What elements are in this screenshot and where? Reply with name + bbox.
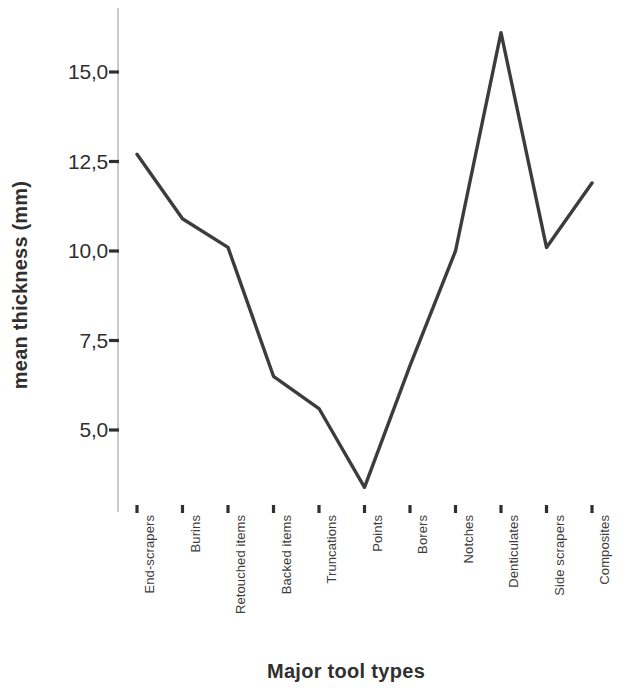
x-tick-label: Burins (188, 515, 203, 655)
x-tick-label: Points (370, 515, 385, 655)
line-chart-figure: mean thickness (mm) 15,012,510,07,55,0 E… (0, 0, 632, 692)
x-axis-title: Major tool types (0, 660, 632, 683)
x-tick-label: Backed items (279, 515, 294, 655)
x-tick-label: Retouched items (233, 515, 248, 655)
x-tick-label: Notches (461, 515, 476, 655)
x-tick-label: Truncations (324, 515, 339, 655)
x-tick-label: Borers (415, 515, 430, 655)
x-tick-label: Denticulates (506, 515, 521, 655)
x-tick-label: Composites (597, 515, 612, 655)
x-axis-tick-labels: End-scrapersBurinsRetouched itemsBacked … (0, 0, 632, 692)
x-tick-label: Side scrapers (552, 515, 567, 655)
x-tick-label: End-scrapers (142, 515, 157, 655)
